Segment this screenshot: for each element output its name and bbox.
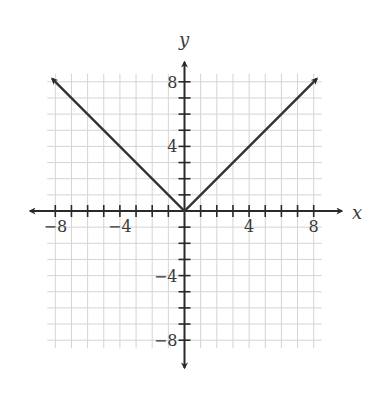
y-tick-label: −4	[154, 267, 178, 286]
y-tick-label: 4	[167, 137, 177, 156]
x-tick-label: −4	[108, 217, 132, 236]
y-axis-label: y	[178, 29, 190, 50]
y-tick-label: −8	[154, 331, 178, 350]
y-tick-label: 8	[167, 73, 177, 92]
coordinate-plane: −8−44884−4−8 x y	[0, 0, 384, 400]
x-tick-label: 4	[244, 217, 254, 236]
x-tick-label: 8	[309, 217, 319, 236]
x-axis-label: x	[352, 202, 362, 223]
x-tick-label: −8	[44, 217, 68, 236]
axes	[30, 62, 342, 368]
